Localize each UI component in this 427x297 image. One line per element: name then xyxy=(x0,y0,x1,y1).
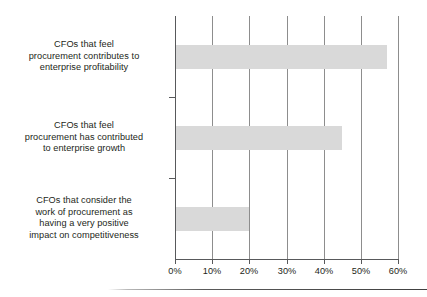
bar xyxy=(175,126,342,150)
category-label-line: impact on competitiveness xyxy=(0,230,168,242)
x-axis-tick-label: 50% xyxy=(341,266,381,277)
x-axis-tick-label: 30% xyxy=(267,266,307,277)
bar xyxy=(175,45,387,69)
x-axis-tick-label: 60% xyxy=(378,266,418,277)
y-axis-tick xyxy=(169,178,175,179)
x-axis-tick xyxy=(398,259,399,264)
x-axis-tick xyxy=(212,259,213,264)
category-label-line: CFOs that feel xyxy=(0,120,168,132)
category-label: CFOs that feelprocurement contributes to… xyxy=(0,39,168,74)
category-label-line: work of procurement as xyxy=(0,207,168,219)
category-label-line: having a very positive xyxy=(0,218,168,230)
x-axis-tick-label: 40% xyxy=(304,266,344,277)
bar xyxy=(175,207,249,231)
x-axis-tick xyxy=(249,259,250,264)
category-label-line: procurement contributes to xyxy=(0,51,168,63)
category-label-line: procurement has contributed xyxy=(0,132,168,144)
x-axis-tick xyxy=(324,259,325,264)
footer-divider xyxy=(108,289,427,290)
category-axis-labels: CFOs that feelprocurement contributes to… xyxy=(0,16,172,259)
category-label-line: to enterprise growth xyxy=(0,143,168,155)
plot-area xyxy=(175,16,398,259)
x-axis-tick-label: 10% xyxy=(192,266,232,277)
category-label: CFOs that feelprocurement has contribute… xyxy=(0,120,168,155)
x-axis-tick xyxy=(287,259,288,264)
y-axis-line xyxy=(175,16,176,260)
x-axis-tick-labels: 0%10%20%30%40%50%60% xyxy=(175,266,399,280)
category-label: CFOs that consider thework of procuremen… xyxy=(0,195,168,241)
category-label-line: CFOs that feel xyxy=(0,39,168,51)
x-axis-tick xyxy=(175,259,176,264)
y-axis-tick xyxy=(169,97,175,98)
x-axis-tick-label: 20% xyxy=(229,266,269,277)
bar-chart: CFOs that feelprocurement contributes to… xyxy=(0,0,427,297)
x-axis-tick-label: 0% xyxy=(155,266,195,277)
x-axis-tick xyxy=(361,259,362,264)
category-label-line: CFOs that consider the xyxy=(0,195,168,207)
category-label-line: enterprise profitability xyxy=(0,62,168,74)
gridline xyxy=(398,16,399,259)
